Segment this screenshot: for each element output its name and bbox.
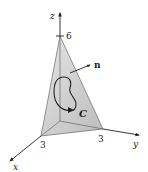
x-axis-label: x xyxy=(13,162,18,172)
z-tick-label: 6 xyxy=(66,31,72,41)
curve-c-label: C xyxy=(79,108,87,119)
x-tick-label: 3 xyxy=(40,140,46,150)
y-axis xyxy=(103,129,139,135)
x-axis xyxy=(10,136,41,161)
z-axis-label: z xyxy=(49,11,55,21)
y-axis-label: y xyxy=(132,139,139,149)
normal-vector-label: n xyxy=(94,60,101,70)
surface-diagram: z 6 3 x 3 y n C xyxy=(0,0,148,172)
y-tick-label: 3 xyxy=(98,134,104,144)
sloped-surface xyxy=(41,36,103,136)
